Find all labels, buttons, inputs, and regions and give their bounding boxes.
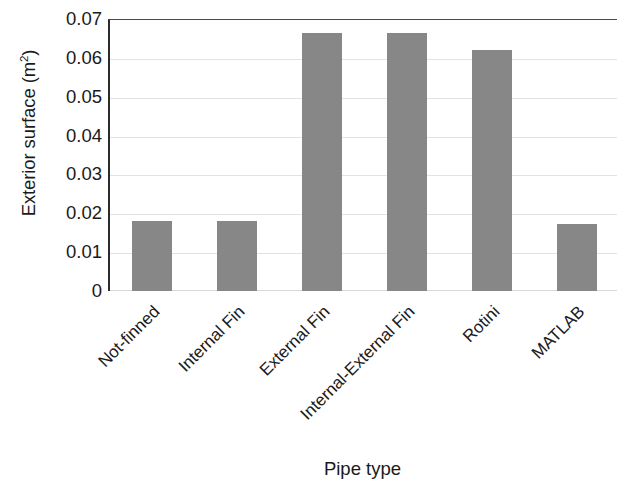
- y-axis-tick-label: 0.05: [24, 86, 102, 108]
- bar: [557, 224, 597, 291]
- bar: [387, 33, 427, 291]
- y-axis-tick-label: 0: [24, 280, 102, 302]
- bars-layer: [110, 20, 617, 291]
- x-axis-title: Pipe type: [108, 458, 617, 480]
- bar-chart: Exterior surface (m2) 0.070.060.050.040.…: [0, 0, 622, 491]
- x-axis-tick-labels: Not-finnedInternal FinExternal FinIntern…: [108, 291, 617, 441]
- y-axis-tick-label: 0.04: [24, 125, 102, 147]
- y-axis-tick-label: 0.02: [24, 202, 102, 224]
- bar: [132, 221, 172, 291]
- bar: [217, 221, 257, 291]
- y-axis-tick-label: 0.03: [24, 163, 102, 185]
- bar: [302, 33, 342, 291]
- plot-area: [108, 19, 617, 291]
- y-axis-tick-label: 0.06: [24, 47, 102, 69]
- y-axis-tick-label: 0.01: [24, 241, 102, 263]
- bar: [472, 50, 512, 291]
- y-axis-tick-label: 0.07: [24, 8, 102, 30]
